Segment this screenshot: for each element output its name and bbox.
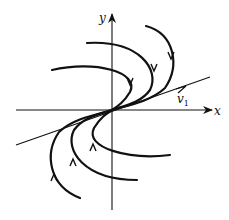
y-axis-label: y [98,11,106,25]
trajectory-lower-2 [72,110,137,180]
trajectories-lower [51,110,170,198]
arrow-down-icon [151,64,157,71]
trajectory-upper-1 [52,66,131,110]
arrow-up-icon [70,159,76,166]
eigenvector-label: v1 [177,92,189,108]
trajectory-lower-1 [93,110,170,156]
arrow-up-icon [90,144,96,151]
trajectories-upper [52,26,174,110]
eigenvector-line [16,77,210,145]
x-axis-label: x [214,104,221,118]
arrow-up-icon [51,174,57,181]
phase-portrait-figure: y x v1 [0,0,229,220]
